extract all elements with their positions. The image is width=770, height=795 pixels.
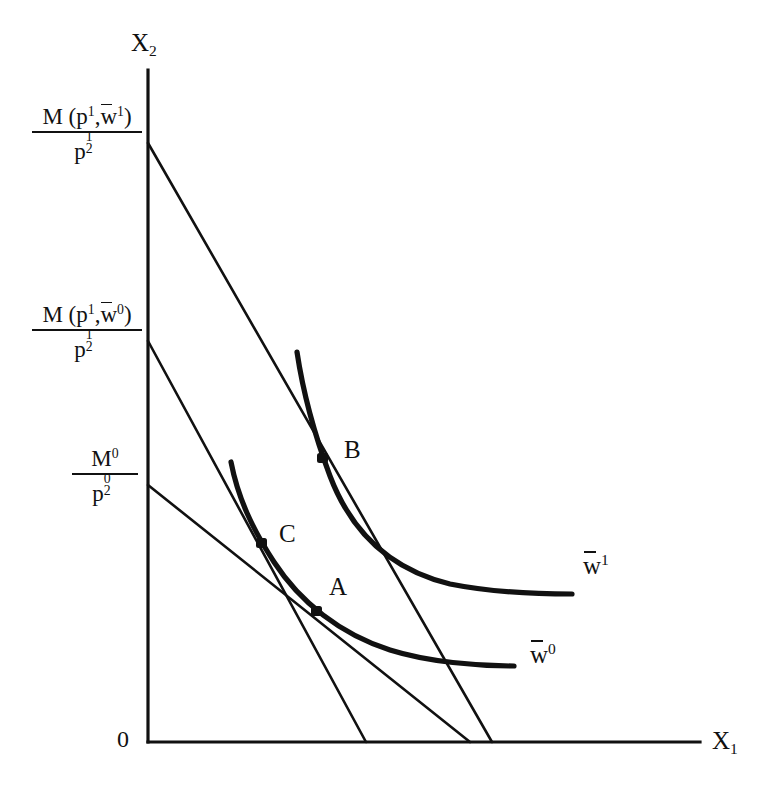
y-tick-high-numerator: M (p1,w1): [32, 105, 142, 130]
y-tick-high-denominator: p12: [32, 135, 142, 163]
y-tick-label-high: M (p1,w1) p12: [32, 105, 142, 163]
point-a-label: A: [329, 574, 347, 599]
y-tick-mid-denominator: p12: [32, 333, 142, 361]
y-tick-label-low: M0 p02: [72, 447, 138, 505]
point-b-label: B: [344, 437, 361, 462]
indifference-curve-w0: [231, 462, 514, 666]
point-c-dot: [256, 538, 267, 548]
y-tick-label-mid: M (p1,w0) p12: [32, 303, 142, 361]
indifference-curve-w0-label: w0: [530, 641, 556, 667]
y-tick-low-denominator: p02: [72, 477, 138, 505]
y-tick-mid-numerator: M (p1,w0): [32, 303, 142, 328]
point-b-dot: [317, 453, 328, 463]
y-axis-label: X2: [131, 30, 157, 58]
indifference-curve-w1-label: w1: [583, 552, 609, 578]
y-tick-low-numerator: M0: [72, 447, 138, 472]
point-c-label: C: [279, 521, 296, 546]
origin-label: 0: [117, 727, 129, 751]
budget-line-original-prices: [148, 485, 470, 742]
x-axis-label: X1: [712, 728, 738, 756]
point-a-dot: [311, 606, 322, 616]
indifference-curve-figure: M (p1,w1) p12 M (p1,w0) p12 M0 p02 X2 X1…: [0, 0, 770, 795]
